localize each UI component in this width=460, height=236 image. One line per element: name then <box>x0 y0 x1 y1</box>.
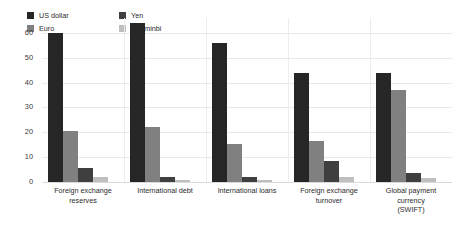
bar-us-dollar[interactable] <box>48 33 63 182</box>
bar-yen[interactable] <box>78 168 93 182</box>
y-axis-tick-label: 0 <box>29 178 33 185</box>
y-axis-tick-label: 10 <box>25 153 33 160</box>
bar-yen[interactable] <box>242 177 257 182</box>
axis-baseline <box>42 182 452 183</box>
y-axis-tick-label: 20 <box>25 129 33 136</box>
category-separator <box>370 18 371 182</box>
bar-group <box>124 18 206 182</box>
bar-euro[interactable] <box>227 144 242 183</box>
bar-us-dollar[interactable] <box>130 23 145 182</box>
bar-groups <box>42 18 452 182</box>
category-separator <box>288 18 289 182</box>
bar-euro[interactable] <box>63 131 78 182</box>
bar-euro[interactable] <box>145 127 160 182</box>
x-axis-category-label: Global payment currency (SWIFT) <box>370 186 452 215</box>
y-axis-tick-label: 30 <box>25 104 33 111</box>
x-axis-category-label: Foreign exchange reserves <box>42 186 124 215</box>
bar-yen[interactable] <box>324 161 339 182</box>
bar-renminbi[interactable] <box>257 180 272 182</box>
x-axis-category-label: Foreign exchange turnover <box>288 186 370 215</box>
bar-yen[interactable] <box>406 173 421 182</box>
x-axis-category-label: International debt <box>124 186 206 215</box>
bar-chart: US dollar Yen Euro Renminbi 010203040506… <box>0 0 460 236</box>
bar-us-dollar[interactable] <box>294 73 309 182</box>
category-separator <box>206 18 207 182</box>
y-axis-tick-label: 50 <box>25 54 33 61</box>
bar-renminbi[interactable] <box>421 178 436 182</box>
x-axis-labels: Foreign exchange reservesInternational d… <box>42 186 452 215</box>
bar-euro[interactable] <box>309 141 324 182</box>
y-axis-tick-label: 60 <box>25 29 33 36</box>
bar-group <box>370 18 452 182</box>
y-axis-tick-label: 40 <box>25 79 33 86</box>
bar-yen[interactable] <box>160 177 175 182</box>
bar-euro[interactable] <box>391 90 406 182</box>
bar-group <box>288 18 370 182</box>
bar-renminbi[interactable] <box>175 180 190 182</box>
bar-us-dollar[interactable] <box>212 43 227 182</box>
x-axis-category-label: International loans <box>206 186 288 215</box>
y-axis-labels: 0102030405060 <box>0 18 38 182</box>
plot-area <box>42 18 452 182</box>
category-separator <box>124 18 125 182</box>
bar-group <box>42 18 124 182</box>
bar-renminbi[interactable] <box>339 177 354 182</box>
bar-group <box>206 18 288 182</box>
bar-us-dollar[interactable] <box>376 73 391 182</box>
bar-renminbi[interactable] <box>93 177 108 182</box>
